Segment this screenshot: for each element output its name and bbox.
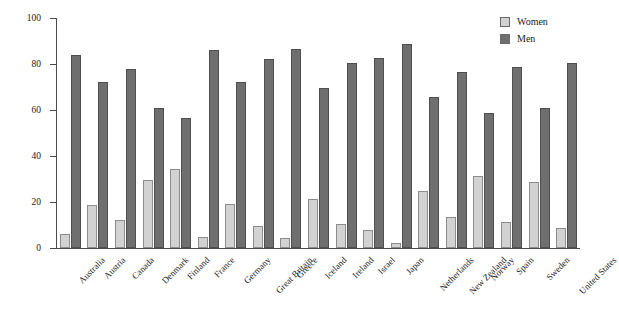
bar-women [363, 230, 373, 248]
x-axis-label: Canada [130, 255, 156, 281]
bar-group [555, 18, 579, 248]
bar-men [209, 50, 219, 248]
bar-group [335, 18, 359, 248]
bar-women [170, 169, 180, 248]
y-tick-label: 100 [27, 18, 41, 19]
bar-women [418, 191, 428, 249]
plot-area: 020406080100 [56, 18, 580, 248]
bar-group [252, 18, 276, 248]
bar-men [457, 72, 467, 248]
legend-label-men: Men [517, 33, 535, 44]
bar-group [528, 18, 552, 248]
x-axis-label: Sweden [544, 255, 571, 282]
y-axis-title: Percent of legislative representation [2, 0, 16, 46]
bar-women [501, 222, 511, 248]
bar-group [169, 18, 193, 248]
bar-men [264, 59, 274, 248]
bar-men [154, 108, 164, 248]
bar-women [115, 220, 125, 248]
bar-group [114, 18, 138, 248]
bar-men [512, 67, 522, 248]
x-axis-label: Spain [514, 255, 536, 277]
x-axis-label: Israel [376, 255, 397, 276]
bar-women [473, 176, 483, 248]
bar-group [500, 18, 524, 248]
bar-group [142, 18, 166, 248]
x-axis-label: Germany [242, 255, 273, 286]
legend: Women Men [500, 14, 548, 48]
bar-women [308, 199, 318, 248]
bar-men [347, 63, 357, 248]
x-axis-label: United States [577, 255, 618, 296]
x-axis-label: Austria [102, 255, 128, 281]
bar-men [567, 63, 577, 248]
bar-group [59, 18, 83, 248]
x-axis-label: France [212, 255, 236, 279]
bar-men [402, 44, 412, 248]
bar-women [446, 217, 456, 248]
legend-swatch-women-icon [500, 17, 510, 27]
bar-group [224, 18, 248, 248]
bar-men [319, 88, 329, 248]
y-tick-label: 20 [32, 202, 42, 203]
legend-label-women: Women [517, 16, 548, 27]
y-tick-0: 0 [50, 248, 56, 249]
bar-groups [56, 18, 580, 248]
y-tick-label: 0 [36, 248, 41, 249]
bar-group [197, 18, 221, 248]
bar-women [253, 226, 263, 248]
bar-men [374, 58, 384, 248]
y-tick-label: 40 [32, 156, 42, 157]
x-axis-label: Greece [295, 255, 320, 280]
bar-group [307, 18, 331, 248]
bar-group [417, 18, 441, 248]
bar-men [98, 82, 108, 248]
bar-group [279, 18, 303, 248]
x-axis-label: Australia [76, 255, 106, 285]
bar-group [390, 18, 414, 248]
legend-swatch-men-icon [500, 34, 510, 44]
bar-men [181, 118, 191, 248]
y-tick-label: 60 [32, 110, 42, 111]
bar-group [362, 18, 386, 248]
x-axis-label: Iceland [323, 255, 349, 281]
legend-item-women: Women [500, 14, 548, 29]
x-axis-label: Ireland [350, 255, 375, 280]
y-tick-label: 80 [32, 64, 42, 65]
bar-group [86, 18, 110, 248]
x-axis-line [56, 248, 580, 249]
bar-men [71, 55, 81, 248]
bar-group [445, 18, 469, 248]
bar-men [291, 49, 301, 248]
bar-men [236, 82, 246, 248]
bar-women [280, 238, 290, 248]
bar-women [336, 224, 346, 248]
bar-women [60, 234, 70, 248]
bar-men [540, 108, 550, 248]
bar-women [391, 243, 401, 248]
bar-women [225, 204, 235, 248]
bar-men [126, 69, 136, 248]
bar-group [472, 18, 496, 248]
bar-men [484, 113, 494, 248]
x-axis-label: Japan [404, 255, 426, 277]
bar-women [87, 205, 97, 248]
x-axis-label: Denmark [159, 255, 190, 286]
bar-women [198, 237, 208, 249]
bar-women [143, 180, 153, 248]
legend-item-men: Men [500, 31, 548, 46]
bar-women [556, 228, 566, 248]
bar-men [429, 97, 439, 248]
bar-women [529, 182, 539, 248]
